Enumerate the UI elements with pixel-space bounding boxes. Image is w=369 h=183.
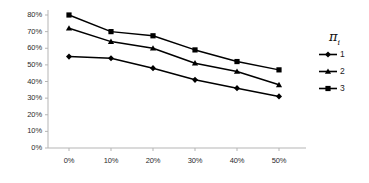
legend-item-3[interactable]: 3 <box>318 80 369 97</box>
x-axis-tick-label: 50% <box>259 156 299 165</box>
chart-legend: πi 123 <box>318 28 369 97</box>
x-axis-tick-label: 0% <box>49 156 89 165</box>
legend-swatch-diamond-icon <box>318 49 338 60</box>
legend-title: πi <box>318 28 369 46</box>
legend-label-2: 2 <box>340 66 345 77</box>
x-axis-tick-label: 40% <box>217 156 257 165</box>
x-axis-tick-label: 30% <box>175 156 215 165</box>
legend-label-3: 3 <box>340 83 345 94</box>
data-point-marker-diamond <box>325 51 331 57</box>
legend-item-1[interactable]: 1 <box>318 46 369 63</box>
legend-title-subscript: i <box>338 38 341 47</box>
legend-item-2[interactable]: 2 <box>318 63 369 80</box>
x-axis-tick-label: 10% <box>91 156 131 165</box>
x-axis-tick-labels: 0%10%20%30%40%50% <box>0 0 310 183</box>
legend-swatch-triangle-icon <box>318 66 338 77</box>
chart-screenshot: 0%10%20%30%40%50%60%70%80% 0%10%20%30%40… <box>0 0 369 183</box>
data-point-marker-square <box>325 86 330 91</box>
x-axis-tick-label: 20% <box>133 156 173 165</box>
legend-swatch-square-icon <box>318 83 338 94</box>
legend-label-1: 1 <box>340 49 345 60</box>
chart-plot-region: 0%10%20%30%40%50%60%70%80% 0%10%20%30%40… <box>0 0 310 183</box>
legend-entries: 123 <box>318 46 369 97</box>
